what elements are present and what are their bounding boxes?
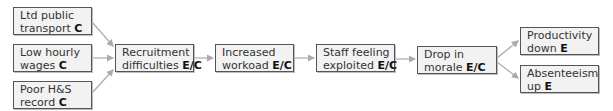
node-low-hourly-wages: Low hourly wages C <box>13 44 92 72</box>
node-ltd-public-transport: Ltd public transport C <box>13 7 92 35</box>
node-line1: Increased <box>222 46 276 59</box>
node-line1: Low hourly <box>20 46 80 59</box>
node-line1: Ltd public <box>20 9 74 22</box>
node-tag: C <box>59 59 67 72</box>
node-absenteeism-up: Absenteeism up E <box>520 65 599 93</box>
node-tag: C <box>59 96 67 109</box>
node-tag: C <box>74 22 82 35</box>
node-tag: E/C <box>377 59 397 72</box>
node-drop-in-morale: Drop in morale E/C <box>417 46 497 74</box>
arrow-morale-to-absenteeism <box>497 62 518 78</box>
node-line2: exploited <box>323 59 374 72</box>
node-line1: Absenteeism <box>527 67 598 80</box>
node-recruitment-difficulties: Recruitment difficulties E/C <box>115 44 194 72</box>
node-line1: Poor H&S <box>20 83 72 96</box>
node-line1: Staff feeling <box>323 46 390 59</box>
node-tag: E <box>560 42 568 55</box>
node-poor-hs-record: Poor H&S record C <box>13 81 92 109</box>
node-line2: workoad <box>222 59 269 72</box>
node-productivity-down: Productivity down E <box>520 27 599 55</box>
node-tag: E/C <box>466 61 486 74</box>
node-line2: morale <box>424 61 463 74</box>
node-tag: E/C <box>272 59 292 72</box>
node-increased-workload: Increased workoad E/C <box>215 44 294 72</box>
node-line1: Recruitment <box>122 46 190 59</box>
node-line2: difficulties <box>122 59 179 72</box>
arrow-transport-to-recruitment <box>92 22 113 46</box>
node-line2: up <box>527 80 541 93</box>
node-line2: wages <box>20 59 55 72</box>
node-line2: record <box>20 96 55 109</box>
arrow-hs-to-recruitment <box>92 70 113 93</box>
node-line2: transport <box>20 22 71 35</box>
node-line1: Drop in <box>424 48 464 61</box>
node-staff-feeling-exploited: Staff feeling exploited E/C <box>316 44 395 72</box>
node-line2: down <box>527 42 557 55</box>
node-tag: E/C <box>182 59 202 72</box>
node-line1: Productivity <box>527 29 592 42</box>
node-tag: E <box>544 80 552 93</box>
arrow-morale-to-productivity <box>497 41 518 58</box>
